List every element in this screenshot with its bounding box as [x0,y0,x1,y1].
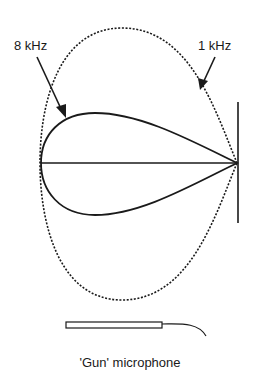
gun-microphone-icon [66,322,162,328]
polar-diagram: 8 kHz 1 kHz 'Gun' microphone [0,0,257,390]
caption: 'Gun' microphone [79,355,180,370]
arrow-1khz [203,57,215,83]
arrowhead-1khz [198,78,208,90]
lobe-8khz [41,113,237,215]
microphone-cable [162,324,206,336]
arrow-8khz [37,57,62,111]
label-8khz: 8 kHz [14,38,47,53]
label-1khz: 1 kHz [198,38,231,53]
arrowhead-8khz [56,104,66,118]
lobe-1khz [40,28,237,300]
